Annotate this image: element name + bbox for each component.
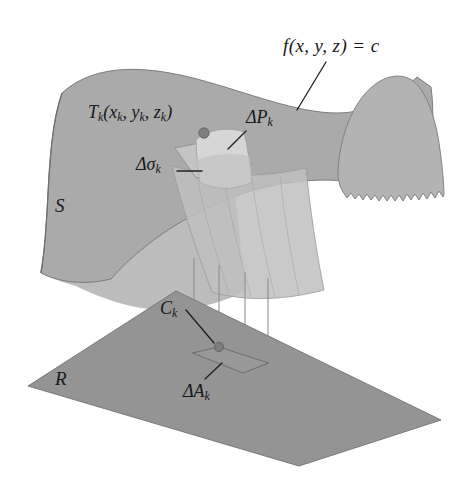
leader-equation xyxy=(297,62,326,110)
tangent-point-dot xyxy=(199,128,209,138)
label-c-k: Ck xyxy=(160,299,177,320)
label-delta-sigma: Δσk xyxy=(136,155,161,176)
label-delta-a: ΔAk xyxy=(183,382,210,403)
surface-patch-delta-p-shading xyxy=(196,154,252,188)
delta-p-text: ΔPk xyxy=(246,107,273,127)
surface-s-text: S xyxy=(55,195,65,216)
label-region-r: R xyxy=(55,369,67,388)
c-k-dot xyxy=(214,342,223,351)
tangent-point-text: Tk(xk, yk, zk) xyxy=(88,102,172,122)
c-k-text: Ck xyxy=(160,298,177,318)
label-tangent-point: Tk(xk, yk, zk) xyxy=(88,103,172,124)
delta-a-text: ΔAk xyxy=(183,381,210,401)
planar-region-r xyxy=(28,291,441,466)
region-r-text: R xyxy=(55,368,67,389)
label-level-surface-equation: f(x, y, z) = c xyxy=(283,36,380,55)
equation-text: f(x, y, z) = c xyxy=(283,35,380,56)
label-delta-p: ΔPk xyxy=(246,108,273,129)
level-surface-figure xyxy=(0,0,464,493)
delta-sigma-text: Δσk xyxy=(136,154,161,174)
label-surface-s: S xyxy=(55,196,65,215)
planar-region-group xyxy=(28,291,441,466)
